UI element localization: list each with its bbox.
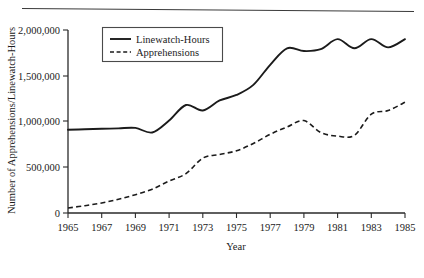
x-tick-label-1981: 1981: [327, 222, 348, 233]
y-tick-label-1000000: 1,000,000: [18, 116, 60, 127]
chart-legend: Linewatch-Hours Apprehensions: [103, 28, 223, 62]
y-tick-label-1500000: 1,500,000: [18, 71, 60, 82]
x-tick-label-1967: 1967: [91, 222, 112, 233]
x-axis-title: Year: [226, 241, 246, 252]
x-tick-label-1965: 1965: [58, 222, 79, 233]
x-tick-label-1985: 1985: [395, 222, 416, 233]
x-tick-label-1979: 1979: [293, 222, 314, 233]
x-tick-label-1969: 1969: [125, 222, 146, 233]
x-tick-label-1971: 1971: [159, 222, 180, 233]
x-axis-tick-labels: 1965196719691971197319751977197919811983…: [58, 222, 416, 233]
x-tick-label-1977: 1977: [260, 222, 281, 233]
x-axis-ticks: [68, 213, 405, 218]
x-tick-label-1975: 1975: [226, 222, 247, 233]
y-tick-label-0: 0: [55, 208, 60, 219]
y-tick-label-500000: 500,000: [26, 162, 60, 173]
line-chart: Number of Apprehensions/Linewatch-Hours …: [0, 0, 424, 278]
y-axis-ticks: [63, 30, 68, 213]
y-axis-title: Number of Apprehensions/Linewatch-Hours: [6, 27, 17, 214]
chart-figure: Number of Apprehensions/Linewatch-Hours …: [0, 0, 424, 278]
legend-label-linewatch-hours: Linewatch-Hours: [136, 34, 209, 45]
x-tick-label-1983: 1983: [361, 222, 382, 233]
series-line-apprehensions: [68, 102, 405, 208]
y-axis-tick-labels: 2,000,000 1,500,000 1,000,000 500,000 0: [18, 25, 60, 219]
legend-label-apprehensions: Apprehensions: [136, 47, 199, 58]
y-tick-label-2000000: 2,000,000: [18, 25, 60, 36]
x-tick-label-1973: 1973: [192, 222, 213, 233]
